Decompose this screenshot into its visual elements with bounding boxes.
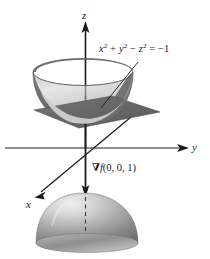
figure-canvas — [0, 0, 210, 259]
lower-sheet-rim — [36, 234, 138, 253]
x-axis-arrowhead — [35, 192, 46, 200]
lower-sheet-surface — [36, 193, 138, 253]
figure-container: z y x x2 + y2 − z2 = −1 ∇f(0, 0, 1) — [0, 0, 210, 259]
gradient-vector — [82, 124, 90, 197]
